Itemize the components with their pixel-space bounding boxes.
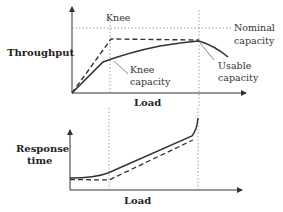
nominal-label-2: capacity [234,35,275,46]
response-time-chart: Response time Load [16,108,242,206]
nominal-label-1: Nominal [234,22,275,33]
throughput-response-diagram: Throughput Knee Nominal capacity Knee ca… [0,0,283,212]
throughput-chart: Throughput Knee Nominal capacity Knee ca… [7,7,275,108]
top-load-label: Load [134,97,161,108]
bottom-load-label: Load [124,195,151,206]
ideal-response-curve [70,140,193,180]
response-label-1: Response [16,143,69,154]
response-label-2: time [27,155,52,166]
usable-capacity-label-1: Usable [218,60,252,71]
usable-capacity-label-2: capacity [218,72,259,83]
knee-capacity-label-1: Knee [130,64,155,75]
actual-response-curve [70,118,198,178]
knee-label: Knee [106,12,131,23]
throughput-label: Throughput [7,47,74,58]
knee-capacity-label-2: capacity [130,76,171,87]
knee-capacity-pointer [114,61,128,74]
